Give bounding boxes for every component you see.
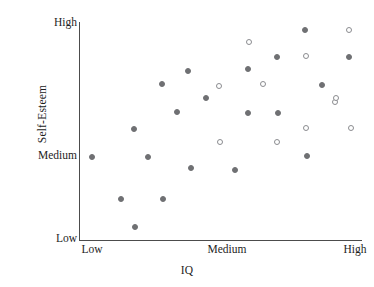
data-point-open: [303, 53, 309, 59]
data-point-filled: [131, 126, 137, 132]
data-point-filled: [185, 68, 191, 74]
data-point-open: [303, 125, 309, 131]
data-point-filled: [346, 54, 352, 60]
data-point-filled: [89, 154, 95, 160]
data-point-filled: [188, 165, 194, 171]
data-point-filled: [159, 81, 165, 87]
x-tick-medium: Medium: [182, 243, 272, 255]
data-point-filled: [275, 110, 281, 116]
x-tick-low: Low: [47, 243, 137, 255]
data-point-open: [348, 125, 354, 131]
data-point-open: [217, 139, 223, 145]
data-point-filled: [132, 224, 138, 230]
data-point-open: [260, 81, 266, 87]
data-point-filled: [203, 95, 209, 101]
data-point-filled: [145, 154, 151, 160]
data-point-open: [346, 27, 352, 33]
data-point-open: [246, 39, 252, 45]
x-axis-line: [79, 240, 362, 241]
scatter-plot-figure: High Medium Low Low Medium High Self-Est…: [0, 0, 374, 287]
data-point-filled: [174, 109, 180, 115]
data-point-filled: [232, 167, 238, 173]
y-axis-line: [79, 22, 80, 241]
y-tick-high: High: [0, 16, 77, 28]
data-point-open: [274, 139, 280, 145]
data-point-filled: [302, 27, 308, 33]
data-point-filled: [160, 196, 166, 202]
x-axis-title: IQ: [0, 264, 374, 276]
data-point-open: [216, 83, 222, 89]
y-axis-title: Self-Esteem: [36, 54, 48, 174]
data-point-filled: [319, 82, 325, 88]
data-point-filled: [245, 66, 251, 72]
data-point-open: [333, 95, 339, 101]
x-tick-high: High: [310, 243, 374, 255]
data-point-filled: [118, 196, 124, 202]
data-point-filled: [245, 110, 251, 116]
data-point-filled: [304, 153, 310, 159]
data-point-filled: [274, 54, 280, 60]
